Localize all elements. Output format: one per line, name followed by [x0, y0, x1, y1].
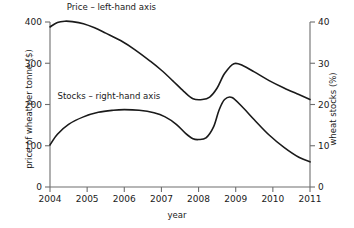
- price-series-label: Price – left-hand axis: [67, 2, 157, 12]
- tick-label-right: 10: [318, 141, 330, 151]
- tick-label-right: 20: [318, 100, 330, 110]
- tick-label-x: 2010: [261, 194, 284, 204]
- tick-label-x: 2011: [299, 194, 322, 204]
- tick-label-x: 2009: [224, 194, 247, 204]
- wheat-price-stocks-chart: price of wheat per tonne ($) wheat stock…: [0, 0, 354, 228]
- tick-label-left: 400: [25, 17, 42, 27]
- tick-label-right: 0: [318, 182, 324, 192]
- price-curve: [50, 21, 310, 100]
- tick-label-right: 30: [318, 59, 330, 69]
- tick-label-right: 40: [318, 17, 330, 27]
- right-axis-ticks: 010203040: [310, 17, 330, 192]
- tick-label-x: 2007: [150, 194, 173, 204]
- axes-group: [50, 22, 310, 187]
- plot-canvas: 0100200300400 010203040 2004200520062007…: [0, 0, 354, 228]
- stocks-series-label: Stocks – right-hand axis: [57, 91, 160, 101]
- stocks-curve: [50, 97, 310, 162]
- x-axis-ticks: 20042005200620072008200920102011: [39, 187, 322, 204]
- tick-label-x: 2006: [113, 194, 136, 204]
- tick-label-left: 0: [36, 182, 42, 192]
- tick-label-left: 200: [25, 100, 42, 110]
- tick-label-left: 100: [25, 141, 42, 151]
- tick-label-x: 2005: [76, 194, 99, 204]
- tick-label-x: 2008: [187, 194, 210, 204]
- left-axis-ticks: 0100200300400: [25, 17, 50, 192]
- tick-label-x: 2004: [39, 194, 62, 204]
- series-annotations: Price – left-hand axisStocks – right-han…: [57, 2, 160, 102]
- tick-label-left: 300: [25, 59, 42, 69]
